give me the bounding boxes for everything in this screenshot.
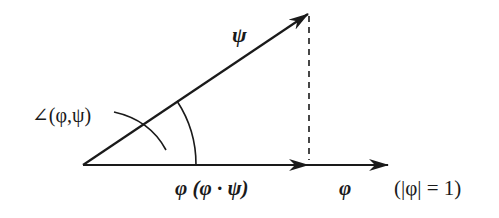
vector-projection-diagram: ψ ∠(φ,ψ) φ (φ · ψ) φ (|φ| = 1) xyxy=(0,0,499,218)
psi-label: ψ xyxy=(232,22,247,47)
projection-label: φ (φ · ψ) xyxy=(175,176,249,200)
angle-label-text: ∠(φ,ψ) xyxy=(32,104,91,127)
angle-arc xyxy=(177,101,196,165)
psi-vector xyxy=(83,14,308,165)
phi-label: φ xyxy=(339,176,351,200)
angle-leader-arc xyxy=(114,112,166,150)
angle-label: ∠(φ,ψ) xyxy=(32,104,91,127)
unit-norm-note: (|φ| = 1) xyxy=(394,176,461,200)
